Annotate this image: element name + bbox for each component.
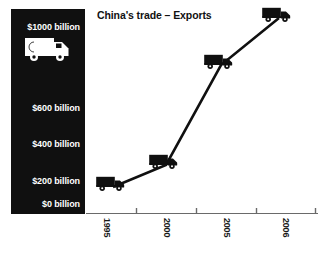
x-tick-label-1995: 1995 (102, 218, 112, 237)
x-tick-label-2000: 2000 (162, 218, 172, 237)
data-point-marker-2006[interactable] (262, 8, 290, 22)
chart-container: $1000 billion $600 billion $400 billion … (0, 0, 326, 260)
y-tick-label-1000: $1000 billion (27, 22, 80, 32)
x-tick-label-2006: 2006 (281, 218, 291, 237)
y-tick-label-600: $600 billion (32, 103, 80, 113)
y-axis-panel: $1000 billion $600 billion $400 billion … (11, 9, 85, 214)
y-tick-label-400: $400 billion (32, 139, 80, 149)
data-point-marker-2000[interactable] (149, 155, 177, 169)
x-tick-label-2005: 2005 (222, 218, 232, 237)
y-tick-label-200: $200 billion (32, 176, 80, 186)
delivery-truck-icon (24, 35, 72, 63)
data-line (113, 18, 279, 187)
data-point-marker-2005[interactable] (204, 55, 232, 69)
data-point-marker-1995[interactable] (96, 177, 124, 191)
chart-title: China's trade – Exports (97, 9, 212, 21)
y-tick-label-0: $0 billion (42, 199, 80, 209)
